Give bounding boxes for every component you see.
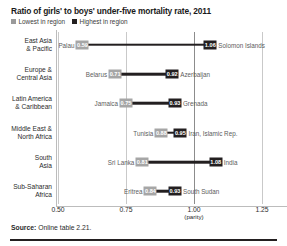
country-label-lowest: Sri Lanka <box>108 158 135 165</box>
marker-highest: 1.06 <box>204 40 217 49</box>
row-label-region: East Asia& Pacific <box>0 37 52 53</box>
chart-legend: Lowest in region Highest in region <box>11 18 128 25</box>
country-label-lowest: Palau <box>58 41 74 48</box>
marker-lowest: 0.81 <box>136 157 149 166</box>
row-label-region: SouthAsia <box>0 154 52 170</box>
row-label-region: Europe &Central Asia <box>0 66 52 82</box>
marker-highest: 0.95 <box>174 128 187 137</box>
row-label-line2: North Africa <box>0 133 52 141</box>
marker-highest: 0.92 <box>166 69 179 78</box>
legend-swatch-lowest-icon <box>11 19 16 24</box>
marker-lowest: 0.59 <box>76 40 89 49</box>
row-label-line2: Central Asia <box>0 74 52 82</box>
chart-row: Europe &Central Asia0.710.92BelarusAzerb… <box>0 59 287 88</box>
row-label-line2: Asia <box>0 162 52 170</box>
x-tick-value: 0.50 <box>51 206 64 213</box>
x-tick-value: 1.25 <box>255 206 268 213</box>
source-note: Source: Online table 2.21. <box>11 224 91 231</box>
legend-label-lowest: Lowest in region <box>19 18 66 25</box>
marker-lowest: 0.75 <box>120 99 133 108</box>
legend-label-highest: Highest in region <box>80 18 128 25</box>
x-tick-1.25: 1.25 <box>255 206 268 213</box>
source-label: Source: <box>11 224 36 231</box>
range-bar <box>82 43 210 46</box>
row-label-region: Sub-SaharanAfrica <box>0 183 52 199</box>
country-label-highest: Azerbaijan <box>180 70 210 77</box>
row-label-region: Middle East &North Africa <box>0 125 52 141</box>
row-label-line1: Middle East & <box>0 125 52 133</box>
chart-row: East Asia& Pacific0.591.06PalauSolomon I… <box>0 30 287 59</box>
x-tick-value: 1.00 <box>187 206 200 213</box>
range-bar <box>115 73 172 76</box>
country-label-highest: Grenada <box>183 100 208 107</box>
country-label-highest: Iran, Islamic Rep. <box>188 129 237 136</box>
marker-lowest: 0.84 <box>144 187 157 196</box>
row-label-line1: South <box>0 154 52 162</box>
row-label-line2: Africa <box>0 191 52 199</box>
chart-title: Ratio of girls' to boys' under-five mort… <box>11 6 211 16</box>
legend-item-highest: Highest in region <box>72 18 127 25</box>
row-label-line1: Latin America <box>0 95 52 103</box>
x-tick-value: 0.75 <box>119 206 132 213</box>
country-label-highest: South Sudan <box>183 188 219 195</box>
chart-figure: Ratio of girls' to boys' under-five mort… <box>0 0 287 246</box>
x-axis: 0.500.751.00(parity)1.25 <box>0 206 287 226</box>
row-label-line2: & Caribbean <box>0 103 52 111</box>
parity-note: (parity) <box>184 213 203 220</box>
country-label-highest: Solomon Islands <box>218 41 265 48</box>
country-label-highest: India <box>224 158 238 165</box>
x-tick-0.50: 0.50 <box>51 206 64 213</box>
marker-highest: 0.93 <box>168 99 181 108</box>
chart-row: Middle East &North Africa0.880.95Tunisia… <box>0 118 287 147</box>
chart-row: Sub-SaharanAfrica0.840.93EritreaSouth Su… <box>0 177 287 206</box>
legend-swatch-highest-icon <box>72 19 77 24</box>
legend-item-lowest: Lowest in region <box>11 18 65 25</box>
row-label-region: Latin America& Caribbean <box>0 95 52 111</box>
country-label-lowest: Eritrea <box>124 188 143 195</box>
chart-row: Latin America& Caribbean0.750.93JamaicaG… <box>0 89 287 118</box>
row-label-line1: East Asia <box>0 37 52 45</box>
country-label-lowest: Jamaica <box>95 100 118 107</box>
marker-lowest: 0.71 <box>109 69 122 78</box>
row-label-line1: Sub-Saharan <box>0 183 52 191</box>
source-text: Online table 2.21. <box>38 224 91 231</box>
footer-rule <box>10 239 277 241</box>
row-label-line1: Europe & <box>0 66 52 74</box>
marker-lowest: 0.88 <box>155 128 168 137</box>
country-label-lowest: Belarus <box>86 70 107 77</box>
x-tick-1.00: 1.00(parity) <box>184 206 203 220</box>
marker-highest: 1.08 <box>209 157 222 166</box>
marker-highest: 0.93 <box>168 187 181 196</box>
row-label-line2: & Pacific <box>0 45 52 53</box>
range-bar <box>142 161 215 164</box>
chart-row: SouthAsia0.811.08Sri LankaIndia <box>0 147 287 176</box>
country-label-lowest: Tunisia <box>133 129 153 136</box>
x-tick-0.75: 0.75 <box>119 206 132 213</box>
plot-area: East Asia& Pacific0.591.06PalauSolomon I… <box>0 30 287 206</box>
